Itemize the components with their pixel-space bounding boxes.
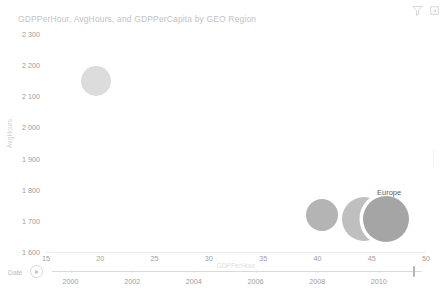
timeline-year-label: 2008 bbox=[309, 277, 325, 286]
chart-title: GDPPerHour, AvgHours, and GDPPerCapita b… bbox=[18, 14, 256, 24]
scatter-bubble[interactable] bbox=[81, 66, 111, 96]
x-axis-tick-label: 30 bbox=[205, 254, 213, 263]
play-button[interactable] bbox=[30, 265, 43, 278]
y-axis-tick-label: 2 200 bbox=[22, 61, 40, 70]
timeline-tick bbox=[71, 270, 72, 273]
header-icon-group bbox=[412, 2, 440, 13]
timeline-year-label: 2000 bbox=[63, 277, 79, 286]
timeline-year-label: 2002 bbox=[124, 277, 140, 286]
x-axis-tick-label: 25 bbox=[151, 254, 159, 263]
x-axis-tick-label: 50 bbox=[422, 254, 430, 263]
y-axis-tick-label: 2 000 bbox=[22, 123, 40, 132]
bubble-label: Europe bbox=[377, 187, 401, 196]
filter-icon[interactable] bbox=[412, 2, 423, 13]
y-axis-title: AvgHours bbox=[6, 119, 13, 148]
x-axis-title: GDPPerHour bbox=[217, 262, 255, 269]
timeline-year-label: 2010 bbox=[371, 277, 387, 286]
y-axis-tick-label: 1 700 bbox=[22, 216, 40, 225]
decorative-mark bbox=[433, 150, 434, 166]
timeline-tick bbox=[194, 270, 195, 273]
x-axis-tick-label: 20 bbox=[96, 254, 104, 263]
y-axis-tick-label: 1 600 bbox=[22, 248, 40, 257]
timeline-tick bbox=[256, 270, 257, 273]
timeline-label: Date bbox=[8, 269, 22, 276]
timeline-tick bbox=[317, 270, 318, 273]
y-axis-tick-label: 1 800 bbox=[22, 185, 40, 194]
play-triangle-icon bbox=[35, 270, 39, 274]
timeline-track[interactable] bbox=[52, 271, 422, 272]
x-axis-line bbox=[46, 252, 426, 253]
y-axis-tick-label: 1 900 bbox=[22, 154, 40, 163]
focus-mode-icon[interactable] bbox=[429, 2, 440, 13]
y-axis-tick-label: 2 300 bbox=[22, 30, 40, 39]
y-axis-tick-label: 2 100 bbox=[22, 92, 40, 101]
timeline-slider[interactable]: Date 200020022004200620082010 bbox=[0, 264, 444, 298]
x-axis-tick-label: 35 bbox=[259, 254, 267, 263]
x-axis-tick-label: 40 bbox=[313, 254, 321, 263]
x-axis-tick-label: 45 bbox=[368, 254, 376, 263]
timeline-handle[interactable] bbox=[413, 266, 415, 277]
timeline-tick bbox=[379, 270, 380, 273]
scatter-bubble[interactable] bbox=[306, 199, 338, 231]
scatter-bubble[interactable] bbox=[363, 196, 409, 242]
x-axis-tick-label: 15 bbox=[42, 254, 50, 263]
timeline-year-label: 2004 bbox=[186, 277, 202, 286]
timeline-year-label: 2006 bbox=[248, 277, 264, 286]
scatter-plot-area[interactable]: 2 3002 2002 1002 0001 9001 8001 7001 600… bbox=[46, 34, 426, 252]
timeline-tick bbox=[132, 270, 133, 273]
